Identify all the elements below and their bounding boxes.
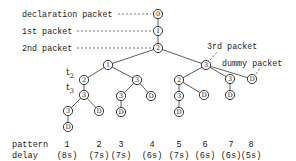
node-label: D (148, 92, 153, 100)
pattern-number: 3 (118, 140, 123, 150)
diagram-svg: declaration packet 1st packet 2nd packet… (0, 0, 296, 161)
dummy-node: D (63, 122, 72, 131)
node-label: D (65, 123, 70, 131)
node-label: D (249, 75, 254, 83)
packet-node: 3 (132, 75, 141, 84)
node-label: D (118, 108, 123, 116)
delay-row-label: delay (12, 151, 38, 161)
pattern-number: 4 (149, 140, 154, 150)
label-dummy-packet: dummy packet (222, 59, 282, 69)
packet-node: 3 (79, 90, 88, 99)
node-label: 3 (82, 91, 86, 99)
label-3rd-packet: 3rd packet (207, 42, 257, 52)
pattern-delay: (8s) (57, 151, 78, 161)
node-label: 2 (177, 76, 181, 84)
pattern-number: 5 (176, 140, 181, 150)
pattern-number: 2 (96, 140, 101, 150)
node-label: 3 (204, 61, 208, 69)
tree-edge (108, 48, 158, 65)
node-label: D (201, 91, 206, 99)
label-declaration-packet: declaration packet (22, 10, 112, 20)
pattern-columns: 1(8s)2(7s)3(7s)4(6s)5(7s)6(6s)7(6s)8(5s) (57, 140, 262, 161)
dummy-node: D (146, 91, 155, 100)
packet-node: 2 (153, 43, 162, 52)
node-label: 1 (156, 27, 160, 35)
node-label: D (96, 107, 101, 115)
node-label: D (176, 108, 181, 116)
label-2nd-packet: 2nd packet (22, 44, 72, 54)
pattern-delay: (7s) (89, 151, 110, 161)
packet-node: 0 (153, 9, 162, 18)
packet-tree-diagram: declaration packet 1st packet 2nd packet… (0, 0, 296, 161)
pattern-delay: (6s) (195, 151, 216, 161)
packet-node: 3 (116, 91, 125, 100)
node-label: 0 (156, 10, 160, 18)
node-label: 2 (82, 76, 86, 84)
packet-node: 1 (153, 26, 162, 35)
leader-3rd (210, 51, 218, 60)
dummy-node: D (247, 74, 256, 83)
pattern-number: 8 (248, 140, 253, 150)
tree-edge (158, 48, 206, 65)
dummy-node: D (116, 107, 125, 116)
packet-node: 3 (174, 91, 183, 100)
pattern-number: 7 (228, 140, 233, 150)
pattern-number: 6 (202, 140, 207, 150)
node-label: D (227, 91, 232, 99)
node-label: 3 (228, 75, 232, 83)
packet-node: 3 (63, 106, 72, 115)
pattern-delay: (7s) (169, 151, 190, 161)
pattern-number: 1 (64, 140, 69, 150)
tree-nodes: 01213233DD33DD23DD3DD (63, 9, 256, 131)
node-label: 2 (156, 44, 160, 52)
packet-node: 2 (79, 75, 88, 84)
node-label: 3 (119, 92, 123, 100)
pattern-delay: (6s) (221, 151, 242, 161)
packet-node: 3 (225, 74, 234, 83)
pattern-row-label: pattern (12, 140, 48, 150)
pattern-delay: (6s) (142, 151, 163, 161)
packet-node: 2 (174, 75, 183, 84)
label-t3: t3 (66, 82, 74, 95)
pattern-delay: (7s) (111, 151, 132, 161)
pattern-delay: (5s) (241, 151, 262, 161)
packet-node: 3 (201, 60, 210, 69)
label-1st-packet: 1st packet (22, 27, 72, 37)
node-label: 3 (66, 107, 70, 115)
label-t2: t2 (66, 67, 74, 80)
packet-node: 1 (103, 60, 112, 69)
node-label: 3 (135, 76, 139, 84)
node-label: 1 (106, 61, 110, 69)
dummy-node: D (94, 106, 103, 115)
dummy-node: D (174, 107, 183, 116)
node-label: 3 (177, 92, 181, 100)
dummy-node: D (225, 90, 234, 99)
dummy-node: D (199, 90, 208, 99)
